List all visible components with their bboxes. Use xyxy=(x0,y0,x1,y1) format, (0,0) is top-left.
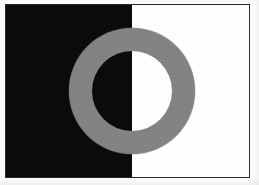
annulus-hole-left-black xyxy=(92,51,132,131)
figure-frame xyxy=(5,4,250,178)
annulus-inner-hole xyxy=(92,51,172,131)
figure-screenshot xyxy=(0,0,259,185)
annulus-hole-right-white xyxy=(132,51,172,131)
